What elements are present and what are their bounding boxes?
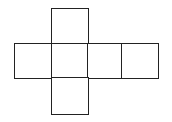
net-square-bottom	[51, 77, 89, 115]
net-square-right-2	[121, 43, 159, 79]
net-square-center	[51, 43, 89, 79]
net-square-right-1	[87, 43, 123, 79]
net-square-top	[51, 8, 89, 45]
net-square-left	[14, 43, 53, 79]
